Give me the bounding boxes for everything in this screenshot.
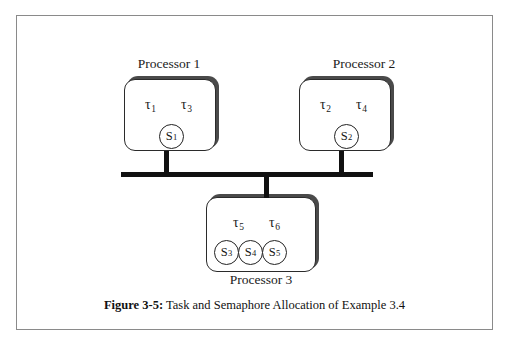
figure-caption: Figure 3-5: Task and Semaphore Allocatio…: [16, 298, 493, 313]
figure-frame: Processor 1 τ1 τ3 S1 Processor 2 τ2 τ4 S…: [16, 15, 493, 330]
processor-3-task-1: τ5: [233, 215, 244, 232]
processor-1-label: Processor 1: [109, 56, 229, 72]
processor-3-semaphore-2[interactable]: S4: [238, 240, 263, 265]
processor-2-label: Processor 2: [304, 56, 424, 72]
bus-stub-processor-1: [164, 151, 169, 173]
processor-1-task-1: τ1: [145, 97, 156, 114]
figure-page: Processor 1 τ1 τ3 S1 Processor 2 τ2 τ4 S…: [0, 0, 510, 343]
bus-stub-processor-3: [264, 176, 269, 198]
processor-3-semaphore-1[interactable]: S3: [214, 240, 239, 265]
bus-stub-processor-2: [339, 151, 344, 173]
figure-caption-text: Task and Semaphore Allocation of Example…: [166, 298, 405, 312]
processor-3-semaphore-3[interactable]: S5: [262, 240, 287, 265]
shared-bus-bar: [121, 172, 373, 177]
processor-1-semaphore-1[interactable]: S1: [159, 124, 184, 149]
processor-2-semaphore-1[interactable]: S2: [334, 124, 359, 149]
processor-1-task-2: τ3: [181, 97, 192, 114]
figure-caption-label: Figure 3-5:: [104, 298, 163, 312]
processor-2-task-1: τ2: [320, 97, 331, 114]
processor-2-task-2: τ4: [356, 97, 367, 114]
processor-3-task-2: τ6: [269, 215, 280, 232]
processor-3-label: Processor 3: [201, 272, 321, 288]
